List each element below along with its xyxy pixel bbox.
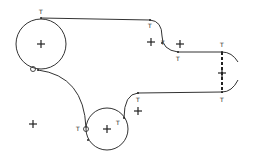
tangent-constraint-label[interactable]: T xyxy=(219,96,224,103)
endpoint-dot xyxy=(137,92,139,94)
endpoint-dot xyxy=(221,51,223,53)
center-mark-icon[interactable] xyxy=(29,120,37,128)
endpoint-dot xyxy=(87,139,89,141)
slot-arc-bottom[interactable] xyxy=(222,80,238,92)
tangent-constraint-label[interactable]: T xyxy=(147,22,152,29)
tangent-constraint-label[interactable]: T xyxy=(38,8,43,15)
tangent-constraint-label[interactable]: T xyxy=(219,41,224,48)
center-mark-icon[interactable] xyxy=(176,40,184,48)
endpoint-dot xyxy=(149,19,151,21)
center-mark-icon[interactable] xyxy=(147,38,155,46)
endpoint-dot xyxy=(221,91,223,93)
connecting-arc[interactable] xyxy=(38,70,86,128)
tangent-constraint-label[interactable]: T xyxy=(115,119,120,126)
top-tangent-line[interactable] xyxy=(41,18,150,20)
center-mark-icon[interactable] xyxy=(103,125,111,133)
tangent-constraint-label[interactable]: T xyxy=(135,96,140,103)
endpoint-dot xyxy=(40,17,42,19)
endpoint-dot xyxy=(177,51,179,53)
center-mark-icon[interactable] xyxy=(37,40,45,48)
center-mark-icon[interactable] xyxy=(218,69,226,77)
upper-s-arc[interactable] xyxy=(150,20,178,52)
tangent-constraint-label[interactable]: T xyxy=(160,39,165,46)
endpoint-dot xyxy=(123,117,125,119)
center-mark-icon[interactable] xyxy=(134,107,142,115)
sketch-drawing: T T T T T T T T T xyxy=(0,0,253,161)
lower-slot-line[interactable] xyxy=(138,92,222,93)
sketch-canvas[interactable]: T T T T T T T T T xyxy=(0,0,253,161)
tangent-constraint-label[interactable]: T xyxy=(175,55,180,62)
endpoint-dot xyxy=(37,69,39,71)
tangent-constraint-label[interactable]: T xyxy=(75,125,80,132)
slot-arc-top[interactable] xyxy=(222,52,238,62)
